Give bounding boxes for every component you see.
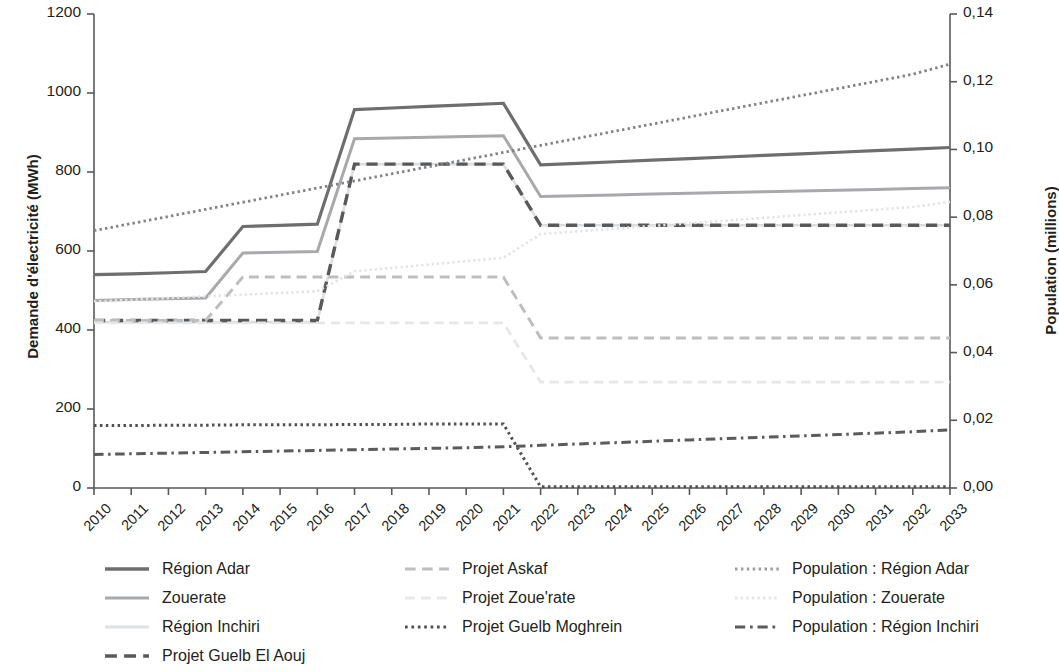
- left-tick-label: 0: [0, 477, 81, 495]
- legend-item[interactable]: Population : Région Inchiri: [734, 614, 979, 640]
- legend-swatch-icon: [104, 649, 150, 663]
- left-tick-label: 1200: [0, 3, 81, 21]
- legend-label: Projet Guelb El Aouj: [162, 647, 305, 665]
- left-tick-label: 400: [0, 319, 81, 337]
- legend-swatch-icon: [734, 591, 780, 605]
- right-tick-label: 0,00: [963, 477, 993, 495]
- legend-item[interactable]: Région Adar: [104, 556, 250, 582]
- legend-item[interactable]: Projet Zoue'rate: [404, 585, 575, 611]
- right-tick-label: 0,06: [963, 274, 993, 292]
- series-line: [94, 323, 950, 382]
- series-line: [94, 64, 950, 231]
- legend-item[interactable]: Population : Zouerate: [734, 585, 945, 611]
- right-tick-label: 0,10: [963, 138, 993, 156]
- right-tick-label: 0,04: [963, 342, 993, 360]
- legend-item[interactable]: Projet Guelb El Aouj: [104, 643, 305, 669]
- legend-swatch-icon: [734, 562, 780, 576]
- legend-label: Population : Région Inchiri: [792, 618, 979, 636]
- left-tick-label: 800: [0, 161, 81, 179]
- legend-swatch-icon: [404, 562, 450, 576]
- left-tick-label: 200: [0, 398, 81, 416]
- legend-label: Projet Zoue'rate: [462, 589, 575, 607]
- left-tick-label: 600: [0, 240, 81, 258]
- legend-swatch-icon: [104, 562, 150, 576]
- legend-label: Projet Guelb Moghrein: [462, 618, 622, 636]
- legend-label: Projet Askaf: [462, 560, 547, 578]
- series-line: [94, 164, 950, 322]
- legend-item[interactable]: Région Inchiri: [104, 614, 260, 640]
- series-line: [94, 103, 950, 274]
- right-tick-label: 0,14: [963, 3, 993, 21]
- series-line: [94, 430, 950, 455]
- legend-label: Zouerate: [162, 589, 226, 607]
- legend-label: Population : Zouerate: [792, 589, 945, 607]
- right-tick-label: 0,12: [963, 71, 993, 89]
- legend-label: Région Adar: [162, 560, 250, 578]
- legend-swatch-icon: [404, 620, 450, 634]
- legend-swatch-icon: [404, 591, 450, 605]
- right-tick-label: 0,08: [963, 206, 993, 224]
- series-line: [94, 424, 950, 487]
- series-line: [94, 136, 950, 301]
- legend-label: Région Inchiri: [162, 618, 260, 636]
- right-tick-label: 0,02: [963, 409, 993, 427]
- series-line: [94, 277, 950, 338]
- left-tick-label: 1000: [0, 82, 81, 100]
- legend-item[interactable]: Projet Guelb Moghrein: [404, 614, 622, 640]
- legend-swatch-icon: [734, 620, 780, 634]
- chart-legend: Région AdarZouerateRégion InchiriProjet …: [104, 556, 1034, 668]
- legend-swatch-icon: [104, 620, 150, 634]
- legend-item[interactable]: Zouerate: [104, 585, 226, 611]
- legend-item[interactable]: Projet Askaf: [404, 556, 547, 582]
- legend-swatch-icon: [104, 591, 150, 605]
- legend-label: Population : Région Adar: [792, 560, 969, 578]
- series-line: [94, 164, 950, 320]
- legend-item[interactable]: Population : Région Adar: [734, 556, 969, 582]
